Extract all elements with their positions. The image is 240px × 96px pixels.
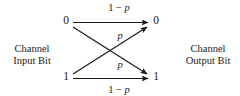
edge-label-top-prefix: 1 − (108, 2, 124, 13)
edge-label-crossover-p-upper: p (112, 30, 128, 42)
edge-label-top-one-minus-p: 1 − p (96, 2, 142, 14)
edge-label-crossover-p-lower: p (112, 59, 128, 71)
bsc-diagram-figure: Channel Input Bit Channel Output Bit 0 1… (0, 0, 240, 96)
input-node-1: 1 (60, 70, 72, 83)
edge-label-top-symbol: p (125, 2, 130, 13)
edge-label-bottom-one-minus-p: 1 − p (96, 84, 142, 96)
output-node-0: 0 (150, 14, 162, 27)
channel-output-bit-label: Channel Output Bit (180, 43, 236, 67)
channel-input-bit-line1: Channel (4, 43, 60, 55)
channel-input-bit-label: Channel Input Bit (4, 43, 60, 67)
edge-label-bottom-symbol: p (125, 84, 130, 95)
edge-label-bottom-prefix: 1 − (108, 84, 124, 95)
channel-output-bit-line1: Channel (180, 43, 236, 55)
channel-output-bit-line2: Output Bit (180, 55, 236, 67)
output-node-1: 1 (150, 70, 162, 83)
channel-input-bit-line2: Input Bit (4, 55, 60, 67)
input-node-0: 0 (60, 14, 72, 27)
